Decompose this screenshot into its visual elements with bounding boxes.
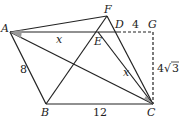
label-A: A [0,22,9,35]
length-EC: x [123,66,130,79]
segment-FC [107,16,153,104]
segment-AC [10,32,153,104]
length-GC-coef: 4 [157,62,164,75]
segment-AF [10,16,107,32]
segment-BF [46,16,107,104]
length-GC-radicand: 3 [172,62,179,75]
label-F: F [103,3,112,16]
segment-AB [10,32,46,104]
length-BC: 12 [93,106,107,119]
label-D: D [114,18,124,31]
label-G: G [148,18,157,31]
label-C: C [147,106,156,119]
length-DG: 4 [132,18,139,31]
label-E: E [93,35,102,48]
sqrt-sign: √ [164,62,172,75]
label-B: B [40,106,49,119]
geometry-figure: A F D G E B C 8 12 4 x x 4 √ 3 [0,0,183,128]
length-AE: x [56,33,63,46]
length-AB: 8 [20,63,27,76]
